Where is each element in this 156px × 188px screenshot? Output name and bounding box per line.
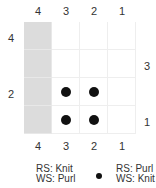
cell-r1-c0 (24, 50, 52, 78)
cell-r2-c3 (108, 78, 136, 106)
cell-r3-c2 (80, 106, 108, 134)
top-col-label-2: 2 (87, 6, 101, 17)
cell-r0-c2 (80, 22, 108, 50)
purl-dot-icon (89, 87, 99, 97)
bottom-col-label-2: 2 (87, 141, 101, 152)
bottom-col-label-4: 4 (31, 141, 45, 152)
purl-dot-icon (61, 115, 71, 125)
cell-r0-c3 (108, 22, 136, 50)
row-label-2: 2 (4, 89, 18, 100)
cell-r2-c1 (52, 78, 80, 106)
bottom-col-label-1: 1 (115, 141, 129, 152)
row-label-4: 4 (4, 33, 18, 44)
bottom-col-label-3: 3 (59, 141, 73, 152)
cell-r1-c1 (52, 50, 80, 78)
cell-r3-c3 (108, 106, 136, 134)
top-col-label-1: 1 (115, 6, 129, 17)
cell-r1-c2 (80, 50, 108, 78)
row-label-3: 3 (140, 61, 154, 72)
purl-dot-icon (89, 115, 99, 125)
cell-r1-c3 (108, 50, 136, 78)
knitting-chart-grid (24, 22, 136, 134)
top-col-label-3: 3 (59, 6, 73, 17)
purl-dot-icon (61, 87, 71, 97)
cell-r0-c0 (24, 22, 52, 50)
row-label-1: 1 (140, 117, 154, 128)
cell-r0-c1 (52, 22, 80, 50)
legend-dot-line2: WS: Knit (116, 174, 155, 184)
cell-r3-c0 (24, 106, 52, 134)
cell-r2-c2 (80, 78, 108, 106)
legend-dot-icon (96, 173, 102, 179)
cell-r2-c0 (24, 78, 52, 106)
legend-blank-line2: WS: Purl (36, 174, 75, 184)
cell-r3-c1 (52, 106, 80, 134)
top-col-label-4: 4 (31, 6, 45, 17)
